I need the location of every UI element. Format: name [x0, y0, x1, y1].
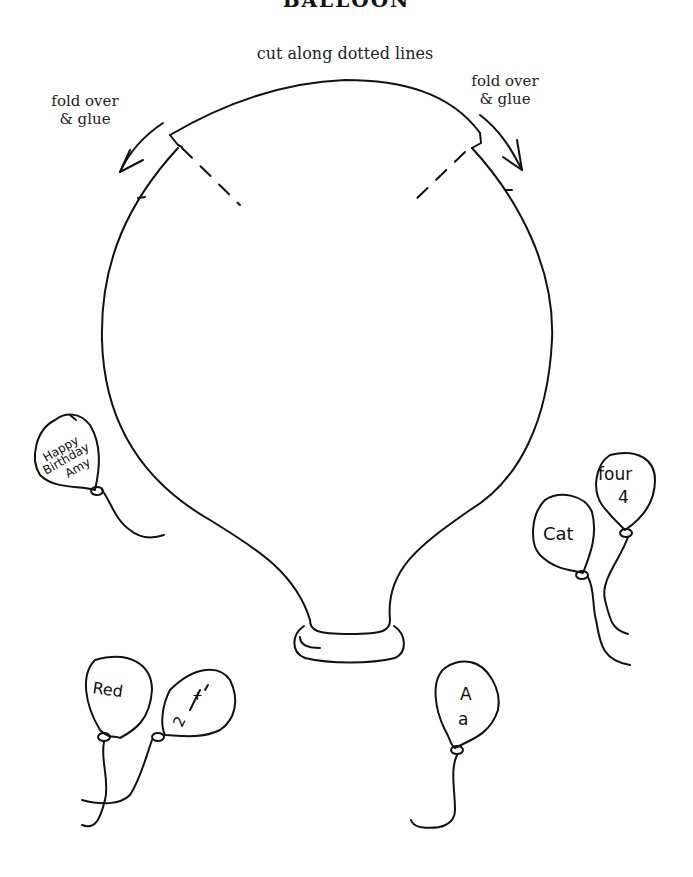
fold-left-arrow-icon — [120, 123, 163, 172]
letter-upper: A — [460, 684, 472, 704]
red-text: Red — [91, 678, 124, 701]
fold-right-arrow-icon — [480, 115, 522, 170]
balloon-template-artwork: Happy Birthday Amy Cat four 4 Red 2 + A … — [0, 0, 693, 877]
cut-lines — [182, 148, 465, 205]
fraction-text-2: 2 — [169, 713, 189, 729]
balloon-birthday — [35, 415, 164, 538]
four-text-line2: 4 — [618, 487, 629, 507]
big-balloon-outline — [102, 80, 552, 663]
four-text-line1: four — [598, 464, 632, 484]
letter-lower: a — [458, 709, 468, 729]
balloon-letter — [411, 661, 499, 827]
fraction-tick — [205, 685, 208, 690]
cat-text: Cat — [543, 523, 574, 544]
